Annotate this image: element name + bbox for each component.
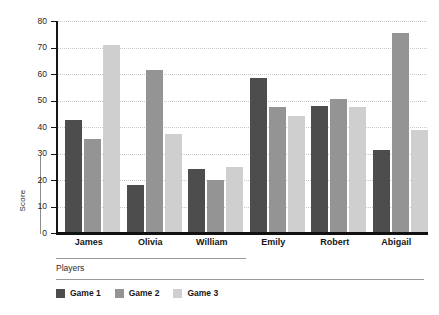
legend-swatch-icon (56, 289, 65, 298)
y-axis-tick (51, 154, 57, 155)
legend-label: Game 3 (187, 288, 218, 298)
y-axis-tick (51, 48, 57, 49)
bar-group (188, 21, 243, 233)
legend-item[interactable]: Game 1 (56, 288, 101, 298)
legend-item[interactable]: Game 2 (115, 288, 160, 298)
y-axis-tick-label: 0 (18, 229, 47, 238)
bar[interactable] (269, 107, 286, 233)
bar[interactable] (165, 134, 182, 233)
bar[interactable] (330, 99, 347, 233)
y-axis-tick-label: 70 (18, 43, 47, 52)
bar[interactable] (226, 167, 243, 233)
legend-label: Game 1 (70, 288, 101, 298)
legend-swatch-icon (173, 289, 182, 298)
bar[interactable] (250, 78, 267, 233)
bar-group (127, 21, 182, 233)
bar[interactable] (311, 106, 328, 233)
bar[interactable] (373, 150, 390, 233)
x-axis-tick-label: James (58, 237, 120, 247)
bar-group (65, 21, 120, 233)
y-axis-tick (51, 127, 57, 128)
bar[interactable] (65, 120, 82, 233)
y-axis-tick-label: 30 (18, 149, 47, 158)
bar[interactable] (288, 116, 305, 233)
y-axis-tick-label: 80 (18, 17, 47, 26)
x-axis-title: Players (56, 263, 84, 273)
legend-label: Game 2 (129, 288, 160, 298)
x-axis-tick-label: Emily (243, 237, 305, 247)
bar-chart: Score Players Game 1Game 2Game 3 0102030… (0, 0, 439, 315)
x-axis-tick-label: Robert (304, 237, 366, 247)
bar[interactable] (84, 139, 101, 233)
bar[interactable] (349, 107, 366, 233)
bar[interactable] (103, 45, 120, 233)
legend-item[interactable]: Game 3 (173, 288, 218, 298)
plot-area (58, 21, 427, 233)
x-axis-title-rule (56, 258, 246, 259)
bar[interactable] (127, 185, 144, 233)
x-axis-tick-label: Olivia (120, 237, 182, 247)
y-axis-tick-label: 40 (18, 123, 47, 132)
bar-group (250, 21, 305, 233)
y-axis-tick-label: 50 (18, 96, 47, 105)
bar[interactable] (146, 70, 163, 233)
y-axis-tick (51, 74, 57, 75)
y-axis-tick (51, 207, 57, 208)
legend-divider (56, 279, 424, 280)
bar[interactable] (411, 130, 428, 233)
x-axis-line (56, 232, 428, 235)
x-axis-tick-label: Abigail (366, 237, 428, 247)
bar[interactable] (392, 33, 409, 233)
x-axis-tick-label: William (181, 237, 243, 247)
bar-group (373, 21, 428, 233)
legend-swatch-icon (115, 289, 124, 298)
legend: Game 1Game 2Game 3 (56, 288, 218, 298)
y-axis-title-rule (40, 156, 41, 234)
y-axis-tick (51, 180, 57, 181)
bar[interactable] (207, 180, 224, 233)
bar[interactable] (188, 169, 205, 233)
y-axis-tick (51, 101, 57, 102)
y-axis-tick-label: 20 (18, 176, 47, 185)
y-axis-tick (51, 233, 57, 234)
bar-group (311, 21, 366, 233)
y-axis-tick-label: 10 (18, 202, 47, 211)
y-axis-tick-label: 60 (18, 70, 47, 79)
y-axis-tick (51, 21, 57, 22)
